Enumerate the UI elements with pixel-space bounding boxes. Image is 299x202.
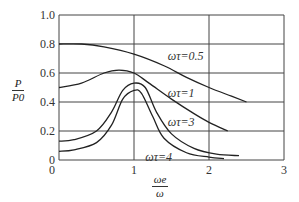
curve-label: ωτ=1 (168, 86, 195, 100)
curve-line (59, 90, 224, 159)
curve-label: ωτ=0.5 (168, 49, 204, 63)
line-chart: 00.20.40.60.81.00123 ωτ=0.5ωτ=1ωτ=3ωτ=4 (0, 0, 299, 202)
y-axis-label: P P0 (12, 78, 24, 103)
curves (59, 44, 247, 159)
y-label-denominator: P0 (12, 92, 24, 103)
x-tick-label: 2 (206, 163, 212, 177)
x-label-denominator: ω (152, 188, 168, 199)
x-tick-label: 3 (281, 163, 287, 177)
x-tick-label: 0 (49, 163, 55, 177)
x-tick-label: 1 (131, 163, 137, 177)
curve-label: ωτ=3 (168, 115, 195, 129)
y-tick-label: 0.2 (40, 124, 55, 138)
y-label-numerator: P (12, 78, 24, 89)
curve-line (59, 70, 228, 131)
curve-label: ωτ=4 (145, 150, 172, 164)
y-tick-label: 1.0 (40, 8, 55, 22)
y-tick-label: 0.6 (40, 66, 55, 80)
x-label-numerator: ωe (152, 174, 168, 185)
x-axis-label: ωe ω (152, 174, 168, 199)
y-tick-label: 0.4 (40, 95, 55, 109)
y-tick-label: 0.8 (40, 37, 55, 51)
curve-line (59, 83, 239, 156)
